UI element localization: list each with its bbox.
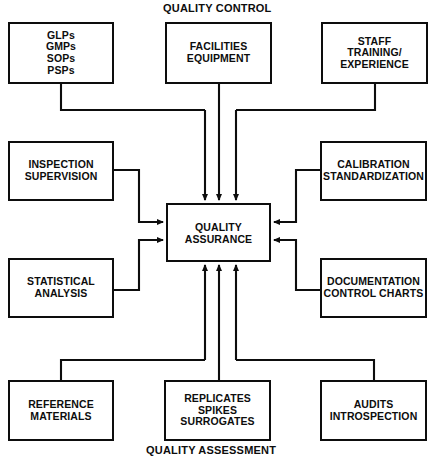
wire-audits bbox=[236, 360, 374, 380]
node-facilities[interactable]: FACILITIES EQUIPMENT bbox=[165, 22, 272, 84]
node-inspection[interactable]: INSPECTION SUPERVISION bbox=[8, 141, 114, 201]
node-reference-label: REFERENCE MATERIALS bbox=[28, 399, 94, 422]
wire-calibration bbox=[274, 170, 320, 222]
quality-control-caption: QUALITY CONTROL bbox=[163, 2, 272, 14]
node-glps[interactable]: GLPs GMPs SOPs PSPs bbox=[8, 22, 114, 84]
node-glps-label: GLPs GMPs SOPs PSPs bbox=[46, 30, 76, 76]
quality-assessment-caption: QUALITY ASSESSMENT bbox=[146, 444, 276, 456]
node-calibration[interactable]: CALIBRATION STANDARDIZATION bbox=[320, 141, 427, 201]
wire-statistical bbox=[114, 240, 163, 290]
node-staff[interactable]: STAFF TRAINING/ EXPERIENCE bbox=[321, 22, 428, 84]
wire-reference bbox=[61, 360, 205, 380]
wire-documentation bbox=[274, 240, 320, 290]
node-replicates-label: REPLICATES SPIKES SURROGATES bbox=[180, 393, 254, 428]
node-quality-assurance-label: QUALITY ASSURANCE bbox=[185, 221, 252, 245]
node-calibration-label: CALIBRATION STANDARDIZATION bbox=[323, 159, 424, 182]
node-quality-assurance[interactable]: QUALITY ASSURANCE bbox=[166, 203, 271, 262]
node-audits-label: AUDITS INTROSPECTION bbox=[330, 399, 418, 422]
node-statistical-label: STATISTICAL ANALYSIS bbox=[27, 276, 95, 299]
node-replicates[interactable]: REPLICATES SPIKES SURROGATES bbox=[164, 380, 271, 441]
node-reference[interactable]: REFERENCE MATERIALS bbox=[8, 380, 114, 441]
node-documentation-label: DOCUMENTATION CONTROL CHARTS bbox=[324, 276, 424, 299]
node-inspection-label: INSPECTION SUPERVISION bbox=[25, 159, 98, 182]
node-documentation[interactable]: DOCUMENTATION CONTROL CHARTS bbox=[320, 258, 427, 318]
wire-glps bbox=[61, 84, 205, 110]
wire-inspection bbox=[114, 170, 163, 222]
node-audits[interactable]: AUDITS INTROSPECTION bbox=[320, 380, 427, 441]
quality-assurance-diagram: QUALITY CONTROL QUALITY ASSESSMENT GLPs … bbox=[0, 0, 434, 461]
node-staff-label: STAFF TRAINING/ EXPERIENCE bbox=[340, 36, 409, 71]
node-facilities-label: FACILITIES EQUIPMENT bbox=[187, 41, 250, 64]
wire-staff bbox=[236, 84, 375, 110]
node-statistical[interactable]: STATISTICAL ANALYSIS bbox=[8, 258, 114, 318]
